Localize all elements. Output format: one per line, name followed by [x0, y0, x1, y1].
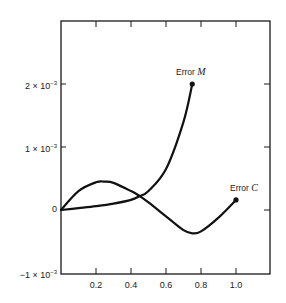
- y-tick-label: 1 × 10−3: [25, 141, 57, 154]
- y-tick-label: 0: [52, 204, 57, 214]
- x-tick-label: 0.6: [151, 280, 181, 290]
- x-tick-label: 1.0: [221, 280, 251, 290]
- x-tick-label: 0.4: [116, 280, 146, 290]
- endpoint-marker: [233, 197, 238, 202]
- axis-ticks: [61, 21, 270, 274]
- x-tick-label: 0.2: [81, 280, 111, 290]
- curve-label-error-m: Error M: [176, 66, 206, 77]
- x-tick-label: 0.8: [186, 280, 216, 290]
- endpoint-marker: [190, 81, 195, 86]
- curve-error-m: [61, 84, 192, 210]
- plot-frame: [61, 21, 270, 274]
- curve-label-error-c: Error C: [230, 182, 258, 193]
- curves: [61, 81, 239, 233]
- y-tick-label: 2 × 10−3: [25, 78, 57, 91]
- y-tick-label: −1 × 10−3: [20, 267, 57, 280]
